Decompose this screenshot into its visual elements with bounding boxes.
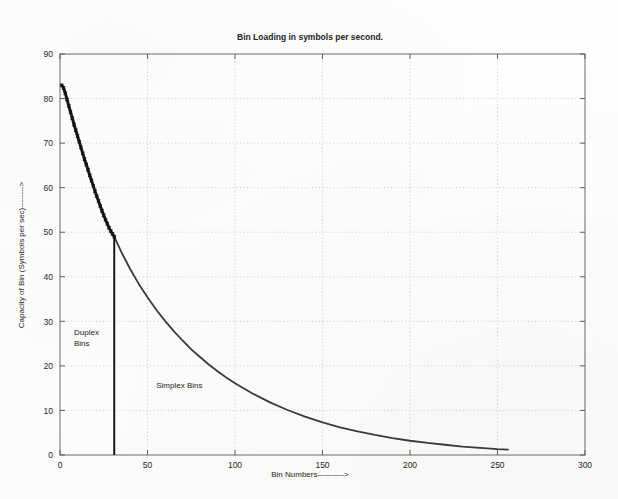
x-tick-label: 150	[315, 460, 329, 470]
simplex-bins-curve	[114, 237, 508, 450]
x-tick-label: 250	[490, 460, 504, 470]
y-tick-label: 50	[44, 227, 54, 237]
y-tick-label: 70	[44, 138, 54, 148]
x-tick-label: 300	[578, 460, 592, 470]
y-tick-label: 80	[44, 94, 54, 104]
chart-title: Bin Loading in symbols per second.	[237, 32, 383, 42]
chart-page: Bin Loading in symbols per second. 01020…	[0, 0, 618, 499]
y-tick-label: 90	[44, 49, 54, 59]
y-tick-label: 0	[48, 450, 53, 460]
y-axis-label: Capacity of Bin (Symbols per sec)-------…	[17, 181, 26, 328]
y-tick-label: 20	[44, 361, 54, 371]
y-tick-label: 60	[44, 183, 54, 193]
annotation-duplex-bins-line2: Bins	[74, 339, 90, 348]
y-axis-tick-labels: 0102030405060708090	[44, 49, 54, 460]
y-tick-label: 10	[44, 406, 54, 416]
x-tick-label: 0	[58, 460, 63, 470]
x-tick-label: 200	[403, 460, 417, 470]
y-tick-label: 30	[44, 317, 54, 327]
gridlines	[60, 54, 585, 455]
annotation-duplex-bins-line1: Duplex	[74, 328, 99, 337]
tick-marks	[60, 54, 585, 455]
x-tick-label: 50	[143, 460, 153, 470]
annotation-simplex-bins: Simplex Bins	[156, 381, 202, 390]
x-axis-label: Bin Numbers---------->	[271, 470, 349, 479]
plot-frame	[60, 54, 585, 455]
x-axis-tick-labels: 050100150200250300	[58, 460, 593, 470]
x-tick-label: 100	[228, 460, 242, 470]
y-tick-label: 40	[44, 272, 54, 282]
duplex-bins-curve	[62, 85, 115, 236]
bin-loading-chart: Bin Loading in symbols per second. 01020…	[0, 0, 618, 499]
